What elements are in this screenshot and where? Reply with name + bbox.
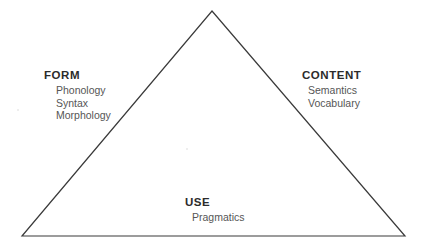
- background-speck: [186, 148, 188, 150]
- corner-label-use: USE Pragmatics: [185, 196, 245, 224]
- corner-label-form: FORM Phonology Syntax Morphology: [44, 69, 111, 122]
- corner-label-content: CONTENT Semantics Vocabulary: [302, 69, 361, 109]
- form-item-phonology: Phonology: [56, 84, 111, 97]
- use-item-list: Pragmatics: [192, 211, 245, 224]
- content-item-list: Semantics Vocabulary: [308, 84, 361, 109]
- form-item-list: Phonology Syntax Morphology: [56, 84, 111, 122]
- content-heading: CONTENT: [302, 69, 361, 82]
- form-item-syntax: Syntax: [56, 97, 111, 110]
- use-item-pragmatics: Pragmatics: [192, 211, 245, 224]
- form-heading: FORM: [44, 69, 111, 82]
- use-heading: USE: [185, 196, 245, 209]
- content-item-vocabulary: Vocabulary: [308, 97, 361, 110]
- language-triangle-diagram: FORM Phonology Syntax Morphology CONTENT…: [0, 0, 425, 247]
- form-item-morphology: Morphology: [56, 109, 111, 122]
- content-item-semantics: Semantics: [308, 84, 361, 97]
- background-speck: [17, 109, 19, 111]
